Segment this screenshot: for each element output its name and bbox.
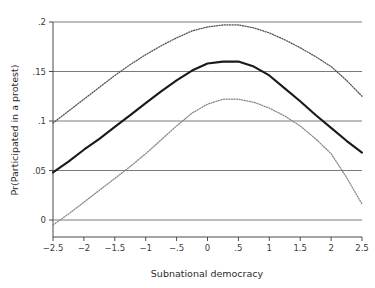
y-axis-title: Pr(Participated in a protest)	[9, 65, 20, 196]
x-tick-label: 0	[205, 243, 210, 253]
y-tick-label: .2	[38, 17, 46, 27]
x-tick-label: 1	[267, 243, 272, 253]
y-tick-label: .05	[32, 166, 46, 176]
x-tick-label: −1	[139, 243, 152, 253]
x-tick-label: −.5	[169, 243, 184, 253]
x-tick-label: 2	[328, 243, 333, 253]
x-axis-title: Subnational democracy	[151, 268, 264, 279]
x-tick-label: −2.5	[43, 243, 64, 253]
x-tick-label: −2	[78, 243, 91, 253]
x-tick-label: 1.5	[293, 243, 307, 253]
y-tick-label: 0	[41, 215, 46, 225]
x-tick-label: −1.5	[104, 243, 125, 253]
chart-figure: 0.05.1.15.2 −2.5−2−1.5−1−.50.511.522.5 S…	[0, 0, 375, 288]
x-tick-label: 2.5	[355, 243, 369, 253]
y-tick-label: .15	[32, 67, 46, 77]
chart-canvas: 0.05.1.15.2 −2.5−2−1.5−1−.50.511.522.5 S…	[0, 0, 375, 288]
y-tick-label: .1	[38, 116, 46, 126]
x-tick-label: .5	[234, 243, 242, 253]
